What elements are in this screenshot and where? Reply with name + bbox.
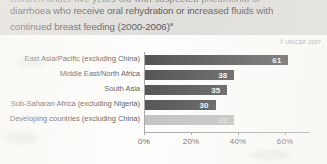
figure-title-line-2-text: continued breast feeding (2000-2006) [10, 21, 170, 32]
bar-value-developing-countries: 38 [218, 116, 227, 125]
figure-title-footnote-marker: a [170, 21, 173, 27]
bar-value-south-asia: 35 [211, 86, 220, 95]
bar-value-east-asia-pacific: 61 [272, 56, 281, 65]
x-tick-label-20: 20% [183, 137, 199, 146]
clipped-previous-line: children under five years old with suspe… [10, 0, 310, 3]
figure-title-line-1: diarrhoea who receive oral rehydration o… [10, 5, 273, 16]
copyright-notice: © UNICEF 2007 [279, 39, 321, 45]
bar-chart: East Asia/Pacific (excluding China) Midd… [0, 49, 327, 164]
x-tick-mark-20 [191, 132, 192, 135]
bar-value-sub-saharan-africa: 30 [200, 101, 209, 110]
bar-value-middle-east-north-africa: 38 [218, 71, 227, 80]
x-tick-label-60: 60% [277, 137, 293, 146]
title-band: children under five years old with suspe… [0, 0, 327, 35]
category-label-sub-saharan-africa: Sub-Saharan Africa (excluding Nigeria) [11, 99, 144, 108]
x-tick-label-40: 40% [230, 137, 246, 146]
x-tick-mark-40 [238, 132, 239, 135]
chart-figure: children under five years old with suspe… [0, 0, 327, 164]
x-tick-mark-0 [144, 132, 145, 135]
category-label-developing-countries: Developing countries (excluding China) [10, 114, 144, 123]
x-tick-mark-60 [285, 132, 286, 135]
category-label-east-asia-pacific: East Asia/Pacific (excluding China) [24, 54, 144, 63]
x-tick-label-0: 0% [138, 137, 150, 146]
category-label-middle-east-north-africa: Middle East/North Africa [60, 69, 144, 78]
category-label-south-asia: South Asia [104, 84, 144, 93]
figure-title-line-2: continued breast feeding (2000-2006)a [10, 19, 173, 32]
bar-east-asia-pacific [145, 55, 288, 65]
